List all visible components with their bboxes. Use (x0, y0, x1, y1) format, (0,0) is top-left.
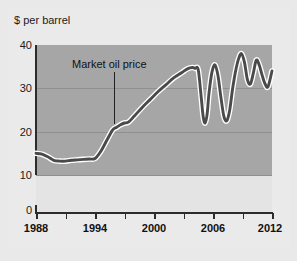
y-tick-10: 10 (4, 169, 32, 181)
x-tick-2000 (154, 213, 156, 219)
y-tick-20: 20 (4, 126, 32, 138)
x-tick-1988 (36, 213, 38, 219)
y-tick-30: 30 (4, 82, 32, 94)
gridline-10 (36, 175, 272, 176)
x-label-2012: 2012 (258, 222, 282, 234)
gridline-30 (36, 88, 272, 89)
x-label-2000: 2000 (142, 222, 166, 234)
y-tick-0: 0 (4, 204, 32, 216)
annotation-market-oil-price: Market oil price (72, 58, 147, 70)
x-tick-2006 (213, 213, 215, 219)
x-tick-2012 (272, 213, 274, 219)
y-tick-40: 40 (4, 39, 32, 51)
x-tick-2003 (184, 213, 186, 219)
x-label-1988: 1988 (24, 222, 48, 234)
x-tick-1991 (66, 213, 68, 219)
x-tick-2009 (243, 213, 245, 219)
chart-figure: $ per barrel 40 30 20 10 0 1988 1994 200… (0, 0, 297, 261)
x-tick-1997 (125, 213, 127, 219)
x-label-2006: 2006 (201, 222, 225, 234)
x-label-1994: 1994 (83, 222, 107, 234)
x-tick-1994 (95, 213, 97, 219)
y-axis-line (35, 45, 37, 175)
gridline-20 (36, 132, 272, 133)
plot-area-lower (36, 175, 272, 212)
annotation-leader-line (114, 72, 115, 124)
